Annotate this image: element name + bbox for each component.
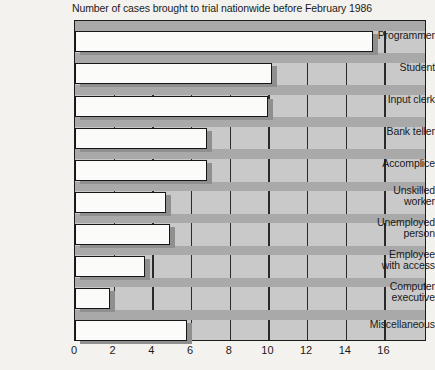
bar-bank-teller[interactable] [75, 128, 207, 149]
category-label-line: with access [365, 260, 435, 272]
x-tick-label-14: 14 [339, 344, 351, 356]
bar-input-clerk[interactable] [75, 96, 268, 117]
category-label-line: Programmer [365, 30, 435, 42]
category-label-unemployed-person: Unemployedperson [365, 217, 435, 240]
category-label-line: Accomplice [365, 158, 435, 170]
bar-student[interactable] [75, 63, 272, 84]
category-label-accomplice: Accomplice [365, 158, 435, 170]
category-label-bank-teller: Bank teller [365, 126, 435, 138]
category-label-line: Input clerk [365, 94, 435, 106]
x-tick-label-8: 8 [226, 344, 232, 356]
category-label-line: worker [365, 196, 435, 208]
bar-accomplice[interactable] [75, 160, 207, 181]
category-label-line: Bank teller [365, 126, 435, 138]
bar-unemployed-person[interactable] [75, 224, 170, 245]
chart-page: Number of cases brought to trial nationw… [0, 0, 435, 370]
x-tick-label-2: 2 [110, 344, 116, 356]
category-label-line: executive [365, 292, 435, 304]
bar-employee-with-access[interactable] [75, 256, 145, 277]
category-label-line: Student [365, 62, 435, 74]
x-axis-tick-labels: 0246810121416 [0, 344, 435, 364]
category-label-input-clerk: Input clerk [365, 94, 435, 106]
category-label-student: Student [365, 62, 435, 74]
category-label-employee-with-access: Employeewith access [365, 249, 435, 272]
x-tick-label-0: 0 [71, 344, 77, 356]
x-tick-label-4: 4 [148, 344, 154, 356]
category-label-computer-executive: Computerexecutive [365, 281, 435, 304]
bar-miscellaneous[interactable] [75, 320, 187, 341]
category-label-miscellaneous: Miscellaneous [365, 319, 435, 331]
x-tick-label-6: 6 [187, 344, 193, 356]
bar-computer-executive[interactable] [75, 288, 110, 309]
bar-programmer[interactable] [75, 31, 373, 52]
bar-unskilled-worker[interactable] [75, 192, 166, 213]
category-label-line: person [365, 228, 435, 240]
x-tick-label-10: 10 [261, 344, 273, 356]
category-label-line: Miscellaneous [365, 319, 435, 331]
category-label-unskilled-worker: Unskilledworker [365, 185, 435, 208]
category-label-programmer: Programmer [365, 30, 435, 42]
chart-title: Number of cases brought to trial nationw… [72, 2, 432, 14]
x-tick-label-16: 16 [377, 344, 389, 356]
x-tick-label-12: 12 [300, 344, 312, 356]
